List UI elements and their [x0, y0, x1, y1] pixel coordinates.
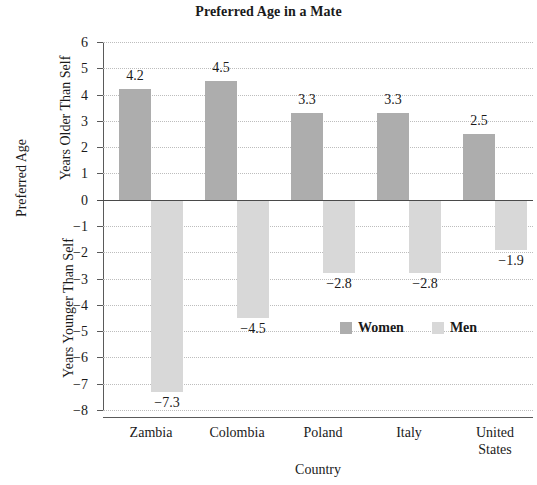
bar-value-label: −7.3 — [154, 395, 179, 411]
bar-women-italy — [377, 113, 409, 200]
bar-chart: Preferred Age in a Mate Preferred Age Ye… — [0, 0, 537, 485]
bar-women-colombia — [205, 81, 237, 199]
y-tick: −2 — [97, 252, 103, 253]
plot-area: 6543210−1−2−3−4−5−6−7−8 4.24.53.33.32.5−… — [103, 42, 533, 410]
y-tick: 4 — [97, 95, 103, 96]
y-tick-label: −3 — [73, 272, 88, 288]
x-axis-line — [103, 417, 533, 418]
y-tick: −8 — [97, 410, 103, 411]
y-tick-label: −8 — [73, 403, 88, 419]
y-tick-label: −6 — [73, 350, 88, 366]
y-tick: 5 — [97, 68, 103, 69]
y-tick-label: −4 — [73, 298, 88, 314]
gridline — [103, 68, 533, 69]
y-tick-label: 3 — [81, 114, 88, 130]
y-tick-label: 1 — [81, 166, 88, 182]
bar-women-united-states — [463, 134, 495, 200]
gridline — [103, 42, 533, 43]
legend-label-men: Men — [450, 320, 477, 336]
bar-men-zambia — [151, 200, 183, 392]
y-tick: −5 — [97, 331, 103, 332]
y-tick: 1 — [97, 173, 103, 174]
x-tick-label-united-states: UnitedStates — [450, 424, 537, 458]
legend-swatch-men-icon — [432, 322, 444, 334]
y-tick-label: 4 — [81, 88, 88, 104]
bar-value-label: −2.8 — [412, 276, 437, 292]
y-tick: 3 — [97, 121, 103, 122]
legend-swatch-women-icon — [340, 322, 352, 334]
y-tick: 6 — [97, 42, 103, 43]
bar-men-italy — [409, 200, 441, 274]
y-tick: 2 — [97, 147, 103, 148]
bar-value-label: 3.3 — [384, 92, 402, 108]
bar-value-label: 4.2 — [126, 68, 144, 84]
bar-men-poland — [323, 200, 355, 274]
y-tick-label: 0 — [81, 193, 88, 209]
bar-women-zambia — [119, 89, 151, 199]
legend-item-women: Women — [340, 320, 404, 336]
bar-men-united-states — [495, 200, 527, 250]
y-tick-label: −7 — [73, 377, 88, 393]
bar-value-label: 4.5 — [212, 60, 230, 76]
y-tick: −4 — [97, 305, 103, 306]
bar-value-label: −4.5 — [240, 321, 265, 337]
y-axis-upper-label: Years Older Than Self — [58, 38, 74, 198]
bar-value-label: 3.3 — [298, 92, 316, 108]
x-tick-label-italy: Italy — [364, 424, 454, 441]
bar-value-label: 2.5 — [470, 113, 488, 129]
legend-label-women: Women — [358, 320, 404, 336]
y-tick-label: −2 — [73, 245, 88, 261]
bar-value-label: −1.9 — [498, 253, 523, 269]
y-tick-label: −1 — [73, 219, 88, 235]
bar-women-poland — [291, 113, 323, 200]
bar-value-label: −2.8 — [326, 276, 351, 292]
zero-baseline — [97, 200, 533, 201]
gridline — [103, 95, 533, 96]
y-tick: −3 — [97, 279, 103, 280]
chart-title: Preferred Age in a Mate — [0, 4, 537, 20]
y-tick-label: 2 — [81, 140, 88, 156]
y-tick-label: −5 — [73, 324, 88, 340]
x-tick-label-colombia: Colombia — [192, 424, 282, 441]
y-tick-label: 5 — [81, 61, 88, 77]
bar-men-colombia — [237, 200, 269, 318]
x-axis-title: Country — [103, 462, 533, 478]
y-tick-label: 6 — [81, 35, 88, 51]
legend: Women Men — [340, 320, 477, 336]
x-tick-label-poland: Poland — [278, 424, 368, 441]
legend-item-men: Men — [432, 320, 477, 336]
y-tick: −1 — [97, 226, 103, 227]
x-tick-label-zambia: Zambia — [106, 424, 196, 441]
y-tick: −6 — [97, 357, 103, 358]
y-tick: −7 — [97, 384, 103, 385]
y-axis-outer-label: Preferred Age — [14, 108, 30, 248]
